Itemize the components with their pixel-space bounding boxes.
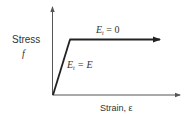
y-axis-label: Stress [12, 34, 40, 45]
stress-strain-diagram: Stress f Et = 0 Et = E Strain, ε [0, 0, 188, 116]
x-axis-label: Strain, ε [100, 103, 133, 113]
y-axis-symbol: f [22, 48, 26, 59]
plastic-label: Et = 0 [95, 24, 119, 36]
elastic-label: Et = E [66, 59, 93, 71]
